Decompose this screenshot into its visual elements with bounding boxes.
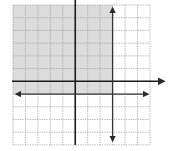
inequality-graph [0, 0, 170, 151]
